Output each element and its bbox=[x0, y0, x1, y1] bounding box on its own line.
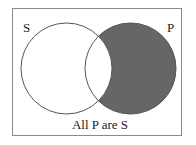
diagram-caption: All P are S bbox=[0, 118, 196, 131]
set-label-s: S bbox=[23, 21, 30, 34]
set-label-p: P bbox=[167, 21, 174, 34]
